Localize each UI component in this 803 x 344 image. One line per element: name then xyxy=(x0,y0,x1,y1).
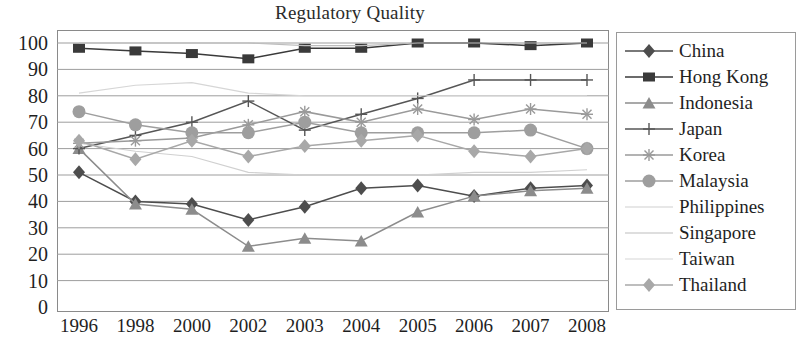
legend-key-icon xyxy=(623,222,675,244)
data-point-marker xyxy=(643,73,655,82)
legend-item-korea[interactable]: Korea xyxy=(623,142,791,168)
y-tick-label: 70 xyxy=(28,112,48,132)
data-point-marker xyxy=(73,44,85,53)
y-tick-label: 50 xyxy=(28,165,48,185)
series-line xyxy=(79,80,587,149)
legend-key-icon xyxy=(623,170,675,192)
data-point-marker xyxy=(643,278,655,292)
data-point-marker xyxy=(468,114,480,126)
data-point-marker xyxy=(411,206,424,218)
legend-key-icon xyxy=(623,248,675,270)
data-point-marker xyxy=(355,181,367,195)
series-line xyxy=(79,109,587,143)
data-point-marker xyxy=(525,74,537,86)
legend-label: Singapore xyxy=(675,222,756,244)
y-tick-label: 0 xyxy=(38,297,48,317)
x-tick-label: 2006 xyxy=(455,315,493,337)
legend-item-china[interactable]: China xyxy=(623,38,791,64)
x-tick-label: 2004 xyxy=(342,315,380,337)
data-point-marker xyxy=(298,116,311,129)
legend-label: Korea xyxy=(675,144,725,166)
data-point-marker xyxy=(242,213,254,227)
data-point-marker xyxy=(242,150,254,164)
data-point-marker xyxy=(468,144,480,158)
legend-item-hong-kong[interactable]: Hong Kong xyxy=(623,64,791,90)
legend: ChinaHong KongIndonesiaJapanKoreaMalaysi… xyxy=(616,32,796,310)
legend-item-japan[interactable]: Japan xyxy=(623,116,791,142)
data-point-marker xyxy=(643,175,656,188)
x-tick-label: 2008 xyxy=(568,315,606,337)
data-point-marker xyxy=(129,118,142,131)
legend-key-icon xyxy=(623,92,675,114)
legend-label: China xyxy=(675,40,724,62)
x-tick-label: 2007 xyxy=(512,315,550,337)
series-line xyxy=(79,83,587,96)
data-point-marker xyxy=(129,46,141,55)
data-point-marker xyxy=(525,103,537,115)
data-point-marker xyxy=(581,108,593,120)
x-axis: 1996199820002002200320042005200620072008 xyxy=(57,313,609,341)
legend-item-singapore[interactable]: Singapore xyxy=(623,220,791,246)
data-point-marker xyxy=(299,139,311,153)
legend-label: Indonesia xyxy=(675,92,753,114)
legend-label: Philippines xyxy=(675,196,765,218)
legend-item-taiwan[interactable]: Taiwan xyxy=(623,246,791,272)
legend-label: Thailand xyxy=(675,274,747,296)
data-point-marker xyxy=(524,124,537,137)
y-tick-label: 10 xyxy=(28,271,48,291)
data-point-marker xyxy=(643,123,655,135)
series-line xyxy=(79,143,587,175)
data-point-marker xyxy=(468,126,481,139)
legend-key-icon xyxy=(623,40,675,62)
y-tick-label: 60 xyxy=(28,139,48,159)
y-tick-label: 20 xyxy=(28,244,48,264)
x-tick-label: 2000 xyxy=(173,315,211,337)
x-tick-label: 2002 xyxy=(229,315,267,337)
legend-key-icon xyxy=(623,66,675,88)
legend-item-philippines[interactable]: Philippines xyxy=(623,194,791,220)
y-tick-label: 100 xyxy=(18,33,48,53)
legend-item-malaysia[interactable]: Malaysia xyxy=(623,168,791,194)
legend-label: Malaysia xyxy=(675,170,749,192)
chart-title: Regulatory Quality xyxy=(150,2,550,24)
data-point-marker xyxy=(525,150,537,164)
x-tick-label: 1996 xyxy=(60,315,98,337)
legend-label: Taiwan xyxy=(675,248,735,270)
legend-item-indonesia[interactable]: Indonesia xyxy=(623,90,791,116)
data-point-marker xyxy=(468,74,480,86)
x-tick-label: 2003 xyxy=(286,315,324,337)
data-point-marker xyxy=(242,54,254,63)
data-point-marker xyxy=(412,179,424,193)
x-tick-label: 2005 xyxy=(399,315,437,337)
plot-area xyxy=(57,30,609,312)
legend-key-icon xyxy=(623,274,675,296)
legend-key-icon xyxy=(623,144,675,166)
legend-item-thailand[interactable]: Thailand xyxy=(623,272,791,298)
data-point-marker xyxy=(186,49,198,58)
y-tick-label: 40 xyxy=(28,191,48,211)
data-point-marker xyxy=(643,44,655,58)
series-canvas xyxy=(57,30,609,312)
data-point-marker xyxy=(129,152,141,166)
data-point-marker xyxy=(73,105,86,118)
legend-key-icon xyxy=(623,118,675,140)
data-point-marker xyxy=(242,126,255,139)
y-tick-label: 30 xyxy=(28,218,48,238)
data-point-marker xyxy=(412,103,424,115)
series-line xyxy=(79,135,587,159)
legend-label: Japan xyxy=(675,118,722,140)
legend-key-icon xyxy=(623,196,675,218)
y-tick-label: 80 xyxy=(28,86,48,106)
data-point-marker xyxy=(581,74,593,86)
data-point-marker xyxy=(73,165,85,179)
y-tick-label: 90 xyxy=(28,59,48,79)
data-point-marker xyxy=(242,95,254,107)
data-point-marker xyxy=(129,135,141,147)
data-point-marker xyxy=(643,149,655,161)
x-tick-label: 1998 xyxy=(116,315,154,337)
chart-root: Regulatory Quality 100908070605040302010… xyxy=(0,0,803,344)
data-point-marker xyxy=(412,92,424,104)
data-point-marker xyxy=(73,134,85,148)
y-axis: 1009080706050403020100 xyxy=(0,30,52,312)
legend-label: Hong Kong xyxy=(675,66,768,88)
